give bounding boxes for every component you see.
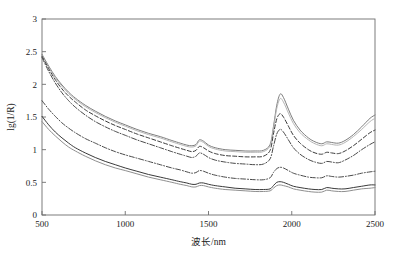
series-line-1 — [42, 54, 375, 151]
y-tick-label: 2 — [33, 80, 38, 90]
figure-container: 500100015002000250000.511.522.53波长/nmlg(… — [0, 0, 395, 256]
series-line-2 — [42, 56, 375, 153]
series-line-4 — [42, 58, 375, 165]
x-tick-label: 1500 — [200, 219, 219, 229]
y-axis-title: lg(1/R) — [6, 103, 17, 130]
x-tick-label: 1000 — [116, 219, 135, 229]
series-line-7 — [42, 122, 375, 193]
spectra-line-chart: 500100015002000250000.511.522.53波长/nmlg(… — [0, 0, 395, 256]
y-tick-label: 2.5 — [26, 47, 38, 57]
y-tick-label: 0.5 — [26, 178, 38, 188]
x-axis-title: 波长/nm — [191, 236, 226, 247]
x-tick-label: 500 — [35, 219, 49, 229]
x-tick-label: 2500 — [366, 219, 385, 229]
axes — [42, 19, 375, 215]
y-tick-label: 1.5 — [26, 112, 38, 122]
y-tick-label: 3 — [33, 14, 38, 24]
y-tick-label: 1 — [33, 145, 38, 155]
series-layer — [42, 54, 375, 192]
y-tick-label: 0 — [33, 210, 38, 220]
plot-frame — [42, 19, 375, 215]
axis-labels: 500100015002000250000.511.522.53波长/nmlg(… — [6, 14, 385, 247]
x-tick-label: 2000 — [283, 219, 302, 229]
series-line-5 — [42, 101, 375, 180]
